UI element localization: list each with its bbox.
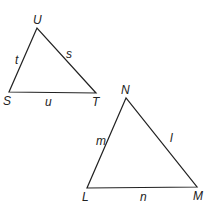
vertex-label-u: U (33, 13, 42, 27)
side-label-s: s (66, 47, 72, 61)
side-label-t: t (15, 53, 19, 67)
side-label-l: l (170, 131, 173, 145)
side-label-u: u (45, 95, 52, 109)
vertex-label-l: L (82, 190, 89, 204)
side-label-m: m (96, 134, 106, 148)
vertex-label-n: N (121, 83, 130, 97)
side-label-n: n (140, 190, 147, 204)
triangle-lmn: N L M m l n (82, 83, 203, 204)
triangles-diagram: U S T t s u N L M m l n (0, 0, 211, 208)
triangle-stu-outline (9, 28, 96, 93)
vertex-label-t: T (92, 95, 101, 109)
vertex-label-m: M (193, 189, 203, 203)
triangle-stu: U S T t s u (3, 13, 101, 109)
vertex-label-s: S (3, 94, 11, 108)
